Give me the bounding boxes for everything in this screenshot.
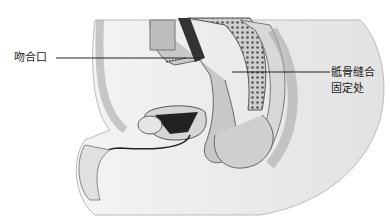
sacral-suture-fixation-label-line2: 固定处 <box>331 82 364 96</box>
anastomosis-label: 吻合口 <box>14 51 47 65</box>
sacral-suture-fixation-label-line1: 骶骨缝合 <box>331 66 375 80</box>
pelvic-anatomy-figure: 吻合口 骶骨缝合 固定处 <box>0 0 390 222</box>
pelvic-sagittal-illustration <box>0 0 390 222</box>
